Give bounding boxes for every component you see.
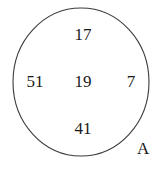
set-name-label: A	[137, 140, 149, 157]
set-element-41: 41	[0, 120, 166, 137]
set-element-17: 17	[0, 26, 166, 43]
set-element-7: 7	[120, 73, 142, 90]
venn-diagram: 17 51 19 7 41 A	[0, 0, 166, 175]
